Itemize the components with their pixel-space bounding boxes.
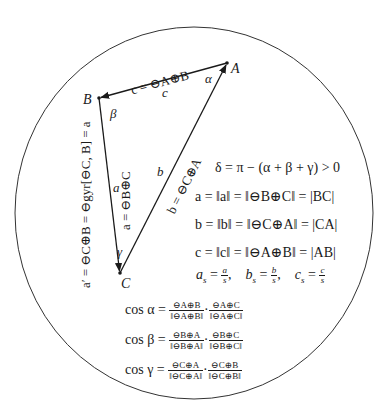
cos-beta-equation: cos β = ⊖B⊕A‖⊖B⊕A‖·⊖B⊕C‖⊖B⊕C‖ [125, 330, 243, 351]
cos-alpha-equation: cos α = ⊖A⊕B‖⊖A⊕B‖·⊖A⊕C‖⊖A⊕C‖ [125, 300, 243, 321]
cs-frac: cs [319, 266, 325, 285]
vertex-A-label: A [230, 61, 240, 76]
vertex-C-dot [118, 271, 122, 275]
side-b-vector-label: b = ⊖C⊕A [164, 155, 205, 216]
bs-sub: s [252, 275, 256, 285]
angle-alpha-label: α [205, 71, 213, 86]
gyrotriangle-diagram: A B C α β γ c a b c = ⊖A⊕B b = ⊖C⊕A a = … [0, 0, 392, 418]
as-frac: as [221, 266, 228, 285]
vertex-B-dot [97, 96, 101, 100]
scaled-sides-equation: as = as, bs = bs, cs = cs [196, 266, 325, 285]
vertex-C-label: C [121, 276, 131, 291]
angle-gamma-label: γ [117, 244, 123, 259]
vertex-B-label: B [83, 92, 92, 107]
cs-sub: s [301, 275, 305, 285]
side-a-length-equation: a = ‖a‖ = ‖⊖B⊕C‖ = |BC| [195, 188, 334, 205]
side-b-length-equation: b = ‖b‖ = ‖⊖C⊕A‖ = |CA| [195, 216, 337, 233]
angular-defect-equation: δ = π − (α + β + γ) > 0 [215, 160, 340, 176]
bs-frac: bs [271, 266, 278, 285]
side-b-label: b [157, 164, 164, 179]
side-c-vector-label: c = ⊖A⊕B [129, 67, 191, 97]
angle-beta-label: β [109, 106, 117, 121]
side-a-vector-label: a = ⊖B⊕C [118, 171, 133, 230]
vertex-A-dot [225, 61, 229, 65]
as-sub: s [203, 275, 207, 285]
cos-gamma-equation: cos γ = ⊖C⊕A‖⊖C⊕A‖·⊖C⊕B‖⊖C⊕B‖ [125, 360, 242, 381]
side-c-length-equation: c = ‖c‖ = ‖⊖A⊕B‖ = |AB| [195, 244, 336, 261]
as-lhs: a [196, 267, 203, 282]
side-a-prime-label: a′ = ⊖C⊕B = ⊖gyr[⊖C, B] = a [78, 121, 93, 288]
